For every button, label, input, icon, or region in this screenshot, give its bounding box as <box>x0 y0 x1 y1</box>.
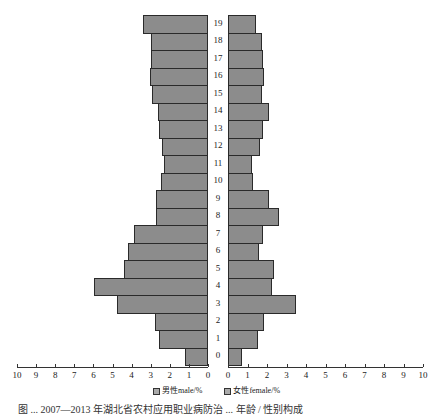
age-group-label: 13 <box>208 123 228 133</box>
male-bar <box>159 120 208 139</box>
female-bar <box>228 260 274 279</box>
male-bar <box>161 173 208 192</box>
axis-tick-label: 7 <box>66 370 82 380</box>
age-group-label: 5 <box>208 263 228 273</box>
axis-tick-label: 4 <box>298 370 314 380</box>
axis-tick-label: 6 <box>337 370 353 380</box>
female-bar <box>228 103 269 122</box>
axis-tick <box>384 364 385 367</box>
axis-tick <box>170 364 171 367</box>
axis-tick-label: 7 <box>357 370 373 380</box>
male-bar <box>156 208 208 227</box>
male-bar <box>162 138 208 157</box>
age-group-label: 14 <box>208 105 228 115</box>
axis-tick <box>74 364 75 367</box>
female-bar <box>228 278 272 297</box>
female-bar <box>228 15 256 34</box>
axis-tick <box>17 364 18 367</box>
male-bar <box>94 278 208 297</box>
axis-tick <box>36 364 37 367</box>
age-group-label: 1 <box>208 333 228 343</box>
age-group-label: 18 <box>208 35 228 45</box>
male-bar <box>155 313 208 332</box>
axis-tick <box>93 364 94 367</box>
male-bar <box>143 15 208 34</box>
female-bar <box>228 225 263 244</box>
male-bar <box>151 33 208 52</box>
female-bar <box>228 138 260 157</box>
legend-label-female: 女性female/% <box>233 386 280 395</box>
axis-tick-label: 0 <box>200 370 216 380</box>
axis-tick-label: 1 <box>181 370 197 380</box>
axis-tick-label: 3 <box>279 370 295 380</box>
age-group-label: 12 <box>208 140 228 150</box>
female-bar <box>228 295 296 314</box>
age-group-label: 0 <box>208 350 228 360</box>
female-bar <box>228 33 262 52</box>
axis-tick-label: 9 <box>396 370 412 380</box>
female-bar <box>228 313 264 332</box>
age-group-label: 6 <box>208 245 228 255</box>
male-bar <box>164 155 208 174</box>
age-group-label: 9 <box>208 193 228 203</box>
male-bar <box>158 103 208 122</box>
axis-tick-label: 3 <box>143 370 159 380</box>
female-bar <box>228 85 262 104</box>
axis-tick <box>248 364 249 367</box>
age-group-label: 2 <box>208 315 228 325</box>
legend-item-male: 男性male/% <box>153 384 202 395</box>
axis-tick-label: 9 <box>28 370 44 380</box>
axis-tick <box>267 364 268 367</box>
axis-tick <box>306 364 307 367</box>
axis-tick-label: 2 <box>162 370 178 380</box>
age-group-label: 15 <box>208 88 228 98</box>
age-group-label: 10 <box>208 175 228 185</box>
female-bar <box>228 173 253 192</box>
axis-tick <box>113 364 114 367</box>
age-group-label: 7 <box>208 228 228 238</box>
male-bar <box>150 68 208 87</box>
axis-tick <box>55 364 56 367</box>
axis-tick <box>345 364 346 367</box>
legend-swatch-female-icon <box>224 388 231 395</box>
axis-tick <box>132 364 133 367</box>
axis-tick-label: 4 <box>124 370 140 380</box>
female-bar <box>228 155 252 174</box>
axis-tick-label: 5 <box>318 370 334 380</box>
female-bar <box>228 330 258 349</box>
axis-tick-label: 1 <box>240 370 256 380</box>
axis-tick <box>404 364 405 367</box>
age-group-label: 19 <box>208 18 228 28</box>
age-group-label: 17 <box>208 53 228 63</box>
axis-tick-label: 6 <box>85 370 101 380</box>
axis-tick <box>287 364 288 367</box>
male-bar <box>134 225 208 244</box>
age-group-label: 16 <box>208 70 228 80</box>
female-bar <box>228 208 279 227</box>
axis-tick <box>151 364 152 367</box>
female-bar <box>228 243 259 262</box>
female-bar <box>228 348 242 367</box>
axis-tick-label: 8 <box>376 370 392 380</box>
male-bar <box>156 190 208 209</box>
age-group-label: 8 <box>208 210 228 220</box>
male-bar <box>159 330 208 349</box>
male-bar <box>152 85 208 104</box>
male-bar <box>124 260 208 279</box>
age-group-label: 3 <box>208 298 228 308</box>
axis-tick <box>228 364 229 367</box>
legend-item-female: 女性female/% <box>224 384 280 395</box>
figure-caption: 图 ... 2007—2013 年湖北省农村应用职业病防治 ... 年龄 / 性… <box>18 401 303 416</box>
age-group-label: 4 <box>208 280 228 290</box>
male-bar <box>151 50 208 69</box>
male-bar <box>117 295 208 314</box>
age-group-label: 11 <box>208 158 228 168</box>
axis-tick <box>365 364 366 367</box>
axis-tick-label: 10 <box>415 370 431 380</box>
axis-tick-label: 2 <box>259 370 275 380</box>
female-bar <box>228 120 263 139</box>
male-x-axis <box>17 367 208 368</box>
legend-label-male: 男性male/% <box>162 386 202 395</box>
legend-swatch-male-icon <box>153 388 160 395</box>
